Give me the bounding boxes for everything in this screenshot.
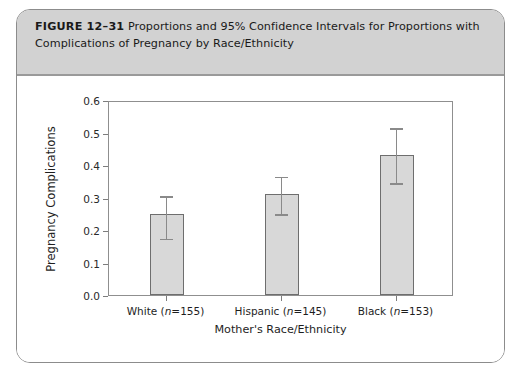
x-tick-mark [166,296,167,301]
chart-frame [108,101,453,296]
y-tick-label: 0.1 [79,258,100,270]
y-axis-title: Pregnancy Complications [44,126,58,271]
y-tick-label: 0.0 [79,290,100,302]
error-bar-cap-lower [390,183,403,185]
error-bar-cap-lower [275,214,288,216]
error-bar-cap-lower [160,239,173,241]
chart-plot-area: Pregnancy Complications 0.00.10.20.30.40… [17,76,504,362]
figure-card: FIGURE 12–31 Proportions and 95% Confide… [16,9,505,363]
x-tick-label: Hispanic (n=145) [235,305,327,317]
x-axis-title: Mother's Race/Ethnicity [214,323,346,336]
figure-caption: FIGURE 12–31 Proportions and 95% Confide… [35,19,484,52]
error-bar-cap-upper [160,196,173,198]
error-bar-line [166,196,168,238]
error-bar-line [281,177,283,214]
y-tick-label: 0.4 [79,160,100,172]
figure-label: FIGURE 12–31 [35,20,124,33]
y-tick-label: 0.5 [79,128,100,140]
x-tick-mark [396,296,397,301]
y-tick-label: 0.2 [79,225,100,237]
error-bar-cap-upper [275,177,288,179]
error-bar-cap-upper [390,128,403,130]
y-tick-label: 0.6 [79,95,100,107]
x-tick-label: Black (n=153) [358,305,433,317]
y-tick-mark [103,296,108,297]
figure-caption-band: FIGURE 12–31 Proportions and 95% Confide… [17,10,504,76]
error-bar-line [396,128,398,183]
y-tick-label: 0.3 [79,193,100,205]
x-tick-mark [281,296,282,301]
x-tick-label: White (n=155) [127,305,205,317]
